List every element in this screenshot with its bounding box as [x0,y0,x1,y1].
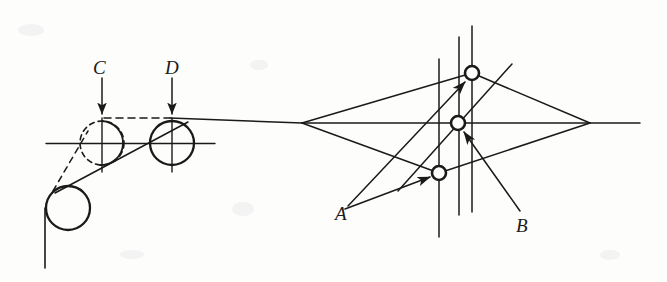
ray-lower-right [439,123,590,173]
figure-canvas: C D A B [0,0,667,282]
leader-a-to-lower-node [345,177,430,209]
solid-circle-lower-left [46,186,90,230]
diagram-svg [0,0,667,282]
left-roller-assembly [45,78,302,268]
dashed-inclined-line [53,131,88,191]
label-b: B [516,216,528,235]
node-upper-marker [465,66,479,80]
ray-upper-right [472,73,590,123]
label-a: A [335,204,347,223]
right-lens-construction [302,26,640,237]
node-middle-marker [451,116,465,130]
node-lower-marker [432,166,446,180]
upper-tangent-line [170,118,302,123]
ray-upper-left [302,73,472,123]
label-c: C [93,58,106,77]
label-d: D [165,58,179,77]
leader-a-to-upper-node [348,82,465,206]
